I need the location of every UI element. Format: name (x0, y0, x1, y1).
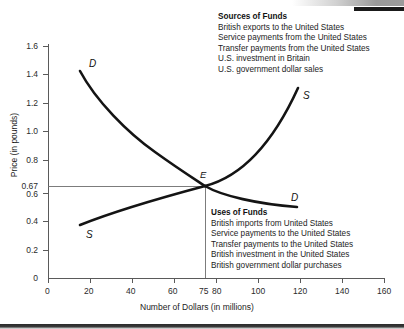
x-axis-ticks (48, 278, 384, 283)
y-tick-label-0-2: 0.2 (10, 245, 38, 255)
sources-of-funds-item-3: Transfer payments from the United States (218, 44, 370, 55)
equilibrium-label: E (200, 169, 206, 180)
x-tick-label-75: 75 (199, 286, 208, 296)
sources-of-funds-item-2: Service payments from the United States (218, 33, 370, 44)
uses-of-funds-item-4: British investment in the United States (211, 250, 353, 261)
x-tick-label-160: 160 (377, 286, 391, 296)
equilibrium-point (203, 184, 206, 187)
uses-of-funds-annotation: Uses of Funds British imports from Unite… (211, 208, 353, 272)
uses-of-funds-item-5: British government dollar purchases (211, 261, 353, 272)
sources-of-funds-item-5: U.S. government dollar sales (218, 65, 370, 76)
x-tick-label-100: 100 (251, 286, 265, 296)
uses-of-funds-item-3: Transfer payments to the United States (211, 240, 353, 251)
y-axis-title: Price (in pounds) (9, 100, 19, 190)
y-tick-label-1-6: 1.6 (10, 41, 38, 51)
y-tick-label-0: 0 (10, 273, 38, 283)
equilibrium-guides (48, 186, 205, 278)
sources-of-funds-annotation: Sources of Funds British exports to the … (218, 12, 370, 76)
sources-of-funds-title: Sources of Funds (218, 12, 370, 23)
x-tick-label-40: 40 (126, 286, 135, 296)
uses-of-funds-item-1: British imports from United States (211, 219, 353, 230)
demand-curve-label-bottom: D (291, 192, 298, 203)
x-tick-label-80: 80 (212, 286, 221, 296)
x-tick-label-0: 0 (45, 286, 50, 296)
demand-curve-label-top: D (89, 58, 96, 69)
uses-of-funds-item-2: Service payments to the United States (211, 229, 353, 240)
bottom-black-bar-artifact (0, 324, 404, 329)
y-tick-label-0-6: 0.6 (10, 189, 38, 199)
sources-of-funds-item-4: U.S. investment in Britain (218, 54, 370, 65)
uses-of-funds-title: Uses of Funds (211, 208, 353, 219)
supply-curve-label-bottom: S (86, 229, 93, 240)
y-axis-ticks (43, 46, 48, 250)
figure-container: 1.6 1.4 1.2 1.0 0.8 0.67 0.6 0.4 0.2 0 0… (0, 0, 404, 329)
x-tick-label-20: 20 (84, 286, 93, 296)
x-tick-label-120: 120 (293, 286, 307, 296)
sources-of-funds-item-1: British exports to the United States (218, 23, 370, 34)
y-tick-label-0-4: 0.4 (10, 216, 38, 226)
x-tick-label-60: 60 (168, 286, 177, 296)
demand-curve (80, 71, 297, 207)
supply-curve-label-top: S (303, 90, 310, 101)
x-axis-title: Number of Dollars (in millions) (140, 302, 254, 312)
y-tick-label-1-4: 1.4 (10, 69, 38, 79)
x-tick-label-140: 140 (335, 286, 349, 296)
